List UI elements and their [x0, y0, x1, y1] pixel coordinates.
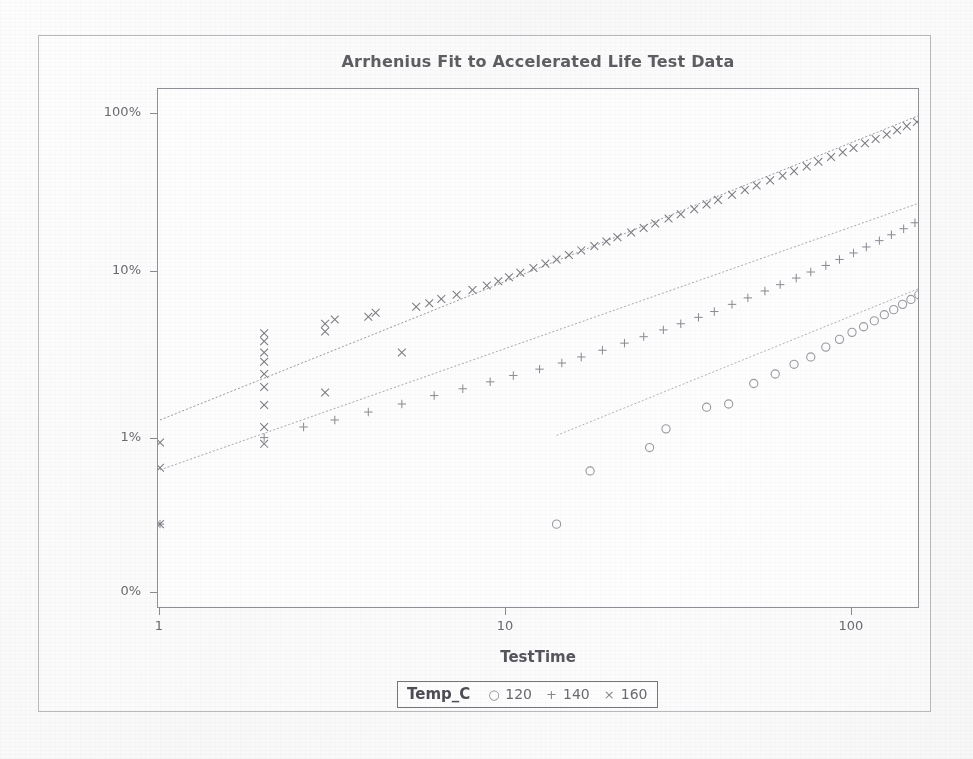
data-point-circle — [586, 467, 594, 475]
fit-lines-layer — [160, 101, 918, 470]
data-point-plus — [677, 320, 685, 328]
data-point-cross — [590, 242, 598, 250]
legend-entry-160[interactable]: × 160 — [603, 686, 648, 702]
data-point-cross — [861, 139, 869, 147]
x-tick-label: 1 — [129, 618, 189, 633]
cross-marker-icon: × — [603, 688, 616, 701]
data-point-cross — [803, 162, 811, 170]
data-point-cross — [741, 186, 749, 194]
x-axis-title: TestTime — [157, 648, 919, 666]
data-point-circle — [915, 291, 918, 299]
data-point-cross — [260, 349, 268, 357]
legend-label-160: 160 — [621, 686, 648, 702]
data-point-plus — [486, 378, 494, 386]
data-point-cross — [158, 439, 164, 447]
data-point-cross — [260, 370, 268, 378]
data-point-plus — [776, 280, 784, 288]
data-point-cross — [453, 291, 461, 299]
data-point-circle — [859, 323, 867, 331]
data-point-circle — [771, 370, 779, 378]
data-point-plus — [398, 400, 406, 408]
data-point-cross — [529, 264, 537, 272]
data-point-cross — [728, 191, 736, 199]
data-point-circle — [552, 520, 560, 528]
x-tick-mark — [159, 608, 160, 615]
data-point-plus — [710, 307, 718, 315]
data-point-circle — [703, 403, 711, 411]
x-tick-label: 100 — [821, 618, 881, 633]
data-point-plus — [299, 423, 307, 431]
legend-entry-140[interactable]: + 140 — [545, 686, 590, 702]
data-point-cross — [398, 349, 406, 357]
data-point-cross — [602, 238, 610, 246]
fit-line-160 — [160, 101, 918, 420]
data-point-plus — [744, 294, 752, 302]
y-tick-label: 1% — [81, 429, 141, 444]
data-point-cross — [158, 464, 164, 472]
y-tick-mark — [150, 592, 157, 593]
data-point-circle — [890, 306, 898, 314]
data-point-plus — [535, 365, 543, 373]
data-point-plus — [899, 224, 907, 232]
data-point-cross — [714, 196, 722, 204]
y-tick-label: 0% — [81, 583, 141, 598]
data-point-cross — [827, 153, 835, 161]
data-point-cross — [565, 251, 573, 259]
data-point-cross — [260, 329, 268, 337]
data-point-circle — [725, 400, 733, 408]
data-point-circle — [835, 335, 843, 343]
data-point-plus — [430, 391, 438, 399]
legend: Temp_C ○ 120 + 140 × 160 — [397, 681, 658, 708]
data-point-cross — [260, 337, 268, 345]
fit-line-140 — [160, 190, 918, 470]
x-tick-mark — [851, 608, 852, 615]
data-point-cross — [614, 233, 622, 241]
y-tick-mark — [150, 113, 157, 114]
data-point-circle — [790, 360, 798, 368]
x-tick-label: 10 — [475, 618, 535, 633]
data-point-cross — [913, 118, 918, 126]
data-point-cross — [766, 176, 774, 184]
data-point-circle — [750, 379, 758, 387]
legend-label-120: 120 — [505, 686, 532, 702]
x-tick-mark — [505, 608, 506, 615]
data-point-plus — [459, 385, 467, 393]
data-point-plus — [331, 416, 339, 424]
data-point-plus — [558, 359, 566, 367]
data-point-plus — [862, 243, 870, 251]
data-point-cross — [321, 320, 329, 328]
data-point-cross — [640, 224, 648, 232]
data-point-cross — [677, 210, 685, 218]
fit-line-120 — [557, 273, 918, 435]
data-point-plus — [694, 313, 702, 321]
y-tick-mark — [150, 271, 157, 272]
data-point-cross — [553, 256, 561, 264]
data-point-plus — [620, 339, 628, 347]
y-tick-label: 100% — [81, 104, 141, 119]
data-point-cross — [903, 122, 911, 130]
data-point-cross — [425, 299, 433, 307]
data-point-circle — [898, 300, 906, 308]
data-point-cross — [469, 286, 477, 294]
y-tick-mark — [150, 438, 157, 439]
data-markers-layer — [158, 118, 918, 528]
data-point-cross — [331, 316, 339, 324]
data-point-plus — [364, 408, 372, 416]
data-point-cross — [260, 401, 268, 409]
plus-marker-icon: + — [545, 688, 558, 701]
data-point-circle — [848, 328, 856, 336]
data-point-plus — [598, 346, 606, 354]
legend-title: Temp_C — [407, 685, 470, 703]
data-point-cross — [690, 205, 698, 213]
data-point-circle — [662, 425, 670, 433]
data-point-cross — [412, 303, 420, 311]
data-point-cross — [893, 126, 901, 134]
data-point-cross — [483, 282, 491, 290]
data-point-cross — [872, 135, 880, 143]
legend-entry-120[interactable]: ○ 120 — [487, 686, 532, 702]
data-point-cross — [321, 328, 329, 336]
data-point-circle — [907, 295, 915, 303]
data-point-circle — [822, 343, 830, 351]
data-point-plus — [849, 249, 857, 257]
data-point-cross — [542, 260, 550, 268]
